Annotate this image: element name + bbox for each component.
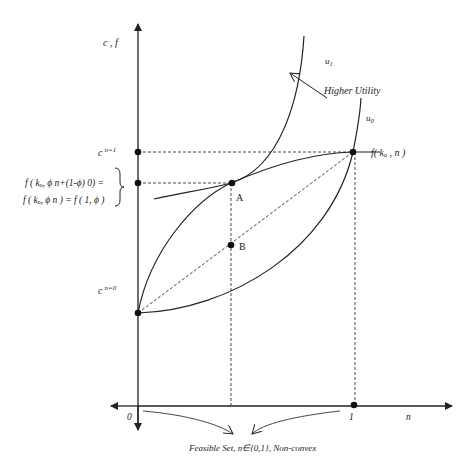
point-f-value <box>135 180 142 187</box>
point-n1 <box>351 402 358 409</box>
point-b-label: B <box>239 241 246 252</box>
f-k-n-label: f( kₒ , n ) <box>371 147 406 159</box>
y-axis-label: c , f <box>103 37 119 48</box>
point-c-n1 <box>135 149 142 156</box>
u1-label: u1 <box>325 56 333 67</box>
x-axis-label: n <box>406 412 411 422</box>
brace-label-line1: f ( kₒ, ϕ n+(1-ϕ) 0) = <box>25 178 104 189</box>
point-a-label: A <box>236 192 244 203</box>
point-f-k-n <box>350 149 357 156</box>
c-n1-label: cn=1 <box>98 146 116 158</box>
u1-curve <box>154 36 304 199</box>
brace <box>115 168 124 206</box>
x-tick-1: 1 <box>349 412 354 422</box>
point-a <box>229 180 236 187</box>
curves <box>138 36 380 313</box>
points <box>135 149 358 409</box>
diagram-canvas: c , f cn=1 cn=0 f ( kₒ, ϕ n+(1-ϕ) 0) = f… <box>0 0 471 467</box>
brace-label-line2: f ( kₒ, ϕ n ) = f ( 1, ϕ ) <box>23 195 104 206</box>
feasible-arrow-right <box>252 411 340 434</box>
u0-curve <box>138 98 361 313</box>
u0-label: u0 <box>366 113 375 124</box>
x-tick-0: 0 <box>127 412 132 422</box>
point-c-n0 <box>135 310 142 317</box>
higher-utility-label: Higher Utility <box>323 85 381 96</box>
dashed-guides <box>138 152 355 406</box>
c-n0-label: cn=0 <box>98 284 117 296</box>
f-curve-concave <box>138 152 380 313</box>
feasible-arrow-left <box>143 411 233 434</box>
feasible-set-label: Feasible Set, n∈{0,1}, Non-convex <box>188 443 316 453</box>
point-b <box>228 242 235 249</box>
